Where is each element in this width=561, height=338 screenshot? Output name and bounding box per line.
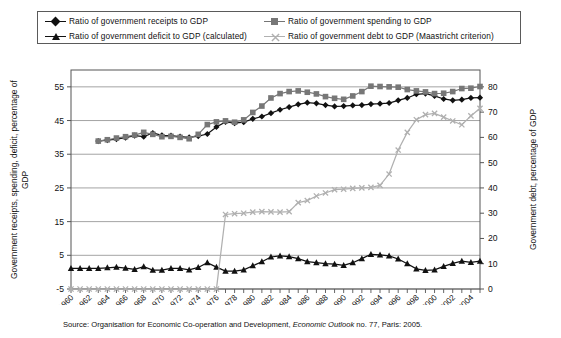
x-axis-tick-label: 1964: [93, 293, 112, 305]
right-axis-tick-label: 30: [488, 208, 498, 218]
x-axis-tick-label: 1978: [220, 293, 239, 305]
triangle-marker-icon: [45, 30, 66, 42]
chart-svg: -551525354555010203040506070801960196219…: [0, 55, 561, 305]
source-note: Source: Organisation for Economic Co-ope…: [63, 320, 422, 329]
x-axis-tick-label: 1984: [274, 293, 293, 305]
x-axis-tick-label: 1996: [384, 293, 403, 305]
legend-row-2: Ratio of government deficit to GDP (calc…: [38, 28, 520, 44]
x-axis-tick-label: 1990: [329, 293, 348, 305]
x-axis-tick-label: 2002: [438, 293, 457, 305]
x-axis-tick-label: 1982: [256, 293, 275, 305]
chart-legend: Ratio of government receipts to GDP Rati…: [37, 11, 521, 44]
x-axis-tick-label: 1972: [165, 293, 184, 305]
legend-label-receipts: Ratio of government receipts to GDP: [69, 16, 208, 26]
right-axis-tick-label: 40: [488, 183, 498, 193]
left-axis-tick-label: 35: [54, 149, 64, 159]
legend-label-debt: Ratio of government debt to GDP (Maastri…: [288, 31, 494, 41]
legend-item-deficit: Ratio of government deficit to GDP (calc…: [45, 28, 247, 44]
x-axis-tick-label: 1974: [184, 293, 203, 305]
left-axis-tick-label: 55: [54, 82, 64, 92]
diamond-marker-icon: [45, 15, 66, 27]
x-axis-tick-label: 2004: [456, 293, 475, 305]
right-axis-tick-label: 60: [488, 132, 498, 142]
legend-item-debt: Ratio of government debt to GDP (Maastri…: [264, 28, 494, 44]
legend-row-1: Ratio of government receipts to GDP Rati…: [38, 13, 520, 29]
legend-label-deficit: Ratio of government deficit to GDP (calc…: [69, 31, 247, 41]
source-italic: Economic Outlook: [293, 320, 355, 329]
chart-page: Ratio of government receipts to GDP Rati…: [0, 0, 561, 338]
left-axis-tick-label: -5: [56, 284, 64, 294]
x-axis-tick-label: 1960: [56, 293, 75, 305]
x-axis-tick-label: 1994: [365, 293, 384, 305]
x-axis-tick-label: 1998: [402, 293, 421, 305]
plot-area: -551525354555010203040506070801960196219…: [0, 55, 561, 305]
x-axis-tick-label: 1968: [129, 293, 148, 305]
right-axis-tick-label: 0: [488, 284, 493, 294]
left-axis-tick-label: 45: [54, 116, 64, 126]
x-axis-tick-label: 1962: [74, 293, 93, 305]
x-axis-tick-label: 1992: [347, 293, 366, 305]
source-suffix: no. 77, Paris: 2005.: [354, 320, 422, 329]
square-marker-icon: [264, 15, 285, 27]
legend-item-receipts: Ratio of government receipts to GDP: [45, 13, 208, 29]
left-axis-tick-label: 5: [59, 250, 64, 260]
x-axis-tick-label: 2000: [420, 293, 439, 305]
x-axis-tick-label: 1970: [147, 293, 166, 305]
right-axis-tick-label: 50: [488, 158, 498, 168]
x-axis-tick-label: 1986: [293, 293, 312, 305]
source-prefix: Source: Organisation for Economic Co-ope…: [63, 320, 293, 329]
x-axis-tick-label: 1966: [111, 293, 130, 305]
right-axis-tick-label: 10: [488, 259, 498, 269]
left-axis-tick-label: 15: [54, 217, 64, 227]
x-axis-tick-label: 1976: [202, 293, 221, 305]
x-axis-tick-label: 1980: [238, 293, 257, 305]
x-axis-tick-label: 1988: [311, 293, 330, 305]
legend-item-spending: Ratio of government spending to GDP: [264, 13, 432, 29]
right-axis-tick-label: 20: [488, 233, 498, 243]
right-axis-tick-label: 80: [488, 82, 498, 92]
x-marker-icon: [264, 30, 285, 42]
legend-label-spending: Ratio of government spending to GDP: [288, 16, 432, 26]
left-axis-tick-label: 25: [54, 183, 64, 193]
right-axis-tick-label: 70: [488, 107, 498, 117]
